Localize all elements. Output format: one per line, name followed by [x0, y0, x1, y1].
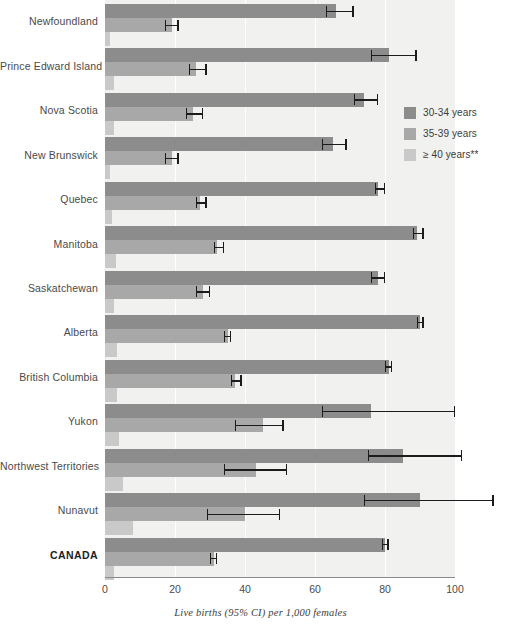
- legend-swatch-icon: [404, 149, 416, 161]
- chart-legend: 30-34 years35-39 years≥ 40 years**: [404, 104, 516, 167]
- legend-item: ≥ 40 years**: [404, 146, 516, 163]
- category-label: Yukon: [0, 415, 98, 427]
- x-tick-label: 40: [239, 583, 251, 595]
- legend-swatch-icon: [404, 107, 416, 119]
- legend-item: 35-39 years: [404, 125, 516, 142]
- legend-label: 35-39 years: [423, 128, 477, 139]
- x-tick-label: 20: [169, 583, 181, 595]
- x-tick-label: 0: [102, 583, 108, 595]
- category-labels: NewfoundlandPrince Edward IslandNova Sco…: [0, 0, 521, 578]
- legend-label: ≥ 40 years**: [423, 149, 479, 160]
- x-tick-label: 80: [379, 583, 391, 595]
- category-label: Saskatchewan: [0, 282, 98, 294]
- legend-label: 30-34 years: [423, 107, 477, 118]
- legend-swatch-icon: [404, 128, 416, 140]
- category-label: Manitoba: [0, 238, 98, 250]
- category-label: Newfoundland: [0, 15, 98, 27]
- category-label: CANADA: [0, 549, 98, 561]
- x-tick-label: 60: [309, 583, 321, 595]
- category-label: New Brunswick: [0, 149, 98, 161]
- x-tick-label: 100: [446, 583, 464, 595]
- category-label: Quebec: [0, 193, 98, 205]
- category-label: Northwest Territories: [0, 460, 98, 472]
- category-label: Nunavut: [0, 504, 98, 516]
- category-label: Alberta: [0, 326, 98, 338]
- category-label: Nova Scotia: [0, 104, 98, 116]
- chart-container: NewfoundlandPrince Edward IslandNova Sco…: [0, 0, 521, 630]
- category-label: Prince Edward Island: [0, 60, 98, 72]
- axis-caption: Live births (95% CI) per 1,000 females: [0, 607, 521, 618]
- category-label: British Columbia: [0, 371, 98, 383]
- legend-item: 30-34 years: [404, 104, 516, 121]
